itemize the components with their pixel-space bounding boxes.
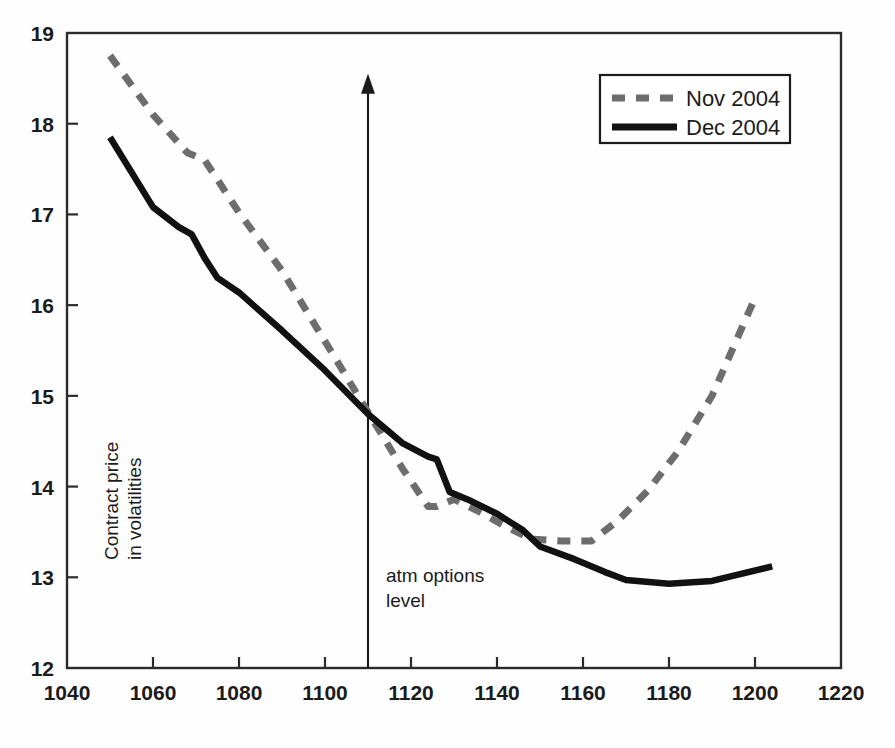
y-axis-title-line-1: Contract price (101, 442, 122, 560)
atm-level-arrow-head (361, 74, 375, 94)
x-axis-tick-labels: 1040106010801100112011401160118012001220 (44, 681, 865, 704)
y-axis-ticks (67, 124, 78, 578)
x-tick-label: 1060 (130, 681, 177, 704)
chart-canvas: 1040106010801100112011401160118012001220… (0, 0, 895, 748)
atm-annotation-line-2: level (386, 590, 425, 611)
y-axis-title-line-2: in volatilities (124, 458, 145, 560)
legend-label-nov-2004: Nov 2004 (686, 86, 780, 111)
x-tick-label: 1200 (732, 681, 779, 704)
y-tick-label: 19 (31, 22, 54, 45)
atm-annotation-line-1: atm options (386, 565, 484, 586)
x-tick-label: 1040 (44, 681, 91, 704)
atm-options-level-annotation: atm options level (361, 74, 484, 668)
y-tick-label: 12 (31, 657, 54, 680)
x-tick-label: 1100 (302, 681, 348, 704)
legend-label-dec-2004: Dec 2004 (686, 115, 780, 140)
y-tick-label: 17 (31, 203, 54, 226)
x-tick-label: 1140 (474, 681, 520, 704)
chart-figure: 1040106010801100112011401160118012001220… (0, 0, 895, 748)
y-tick-label: 16 (31, 294, 54, 317)
x-tick-label: 1080 (216, 681, 263, 704)
series-line-dec-2004 (110, 137, 772, 583)
y-axis-title: Contract price in volatilities (101, 442, 145, 560)
y-tick-label: 14 (31, 476, 55, 499)
x-tick-label: 1160 (560, 681, 606, 704)
y-tick-label: 18 (31, 113, 55, 136)
y-axis-tick-labels: 1213141516171819 (31, 22, 55, 680)
x-tick-label: 1220 (818, 681, 865, 704)
x-tick-label: 1180 (646, 681, 692, 704)
x-axis-ticks (153, 657, 755, 668)
x-tick-label: 1120 (388, 681, 434, 704)
y-tick-label: 15 (31, 385, 55, 408)
y-tick-label: 13 (31, 566, 54, 589)
chart-legend[interactable]: Nov 2004 Dec 2004 (600, 75, 790, 143)
